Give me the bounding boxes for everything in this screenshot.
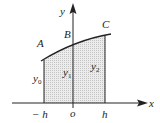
tick-minus-h: − h (32, 109, 48, 120)
point-a-label: A (37, 38, 44, 49)
ordinate-y2-label: y2 (91, 61, 99, 74)
point-c-label: C (102, 19, 109, 30)
ordinate-y1-label: y1 (63, 67, 71, 80)
point-b-label: B (64, 29, 71, 40)
x-axis-label: x (149, 98, 154, 109)
ordinate-y0-label: y0 (33, 73, 41, 86)
simpson-rule-diagram (0, 0, 160, 123)
y-axis-label: y (60, 6, 65, 17)
tick-origin: o (70, 108, 76, 119)
tick-h: h (102, 109, 108, 120)
